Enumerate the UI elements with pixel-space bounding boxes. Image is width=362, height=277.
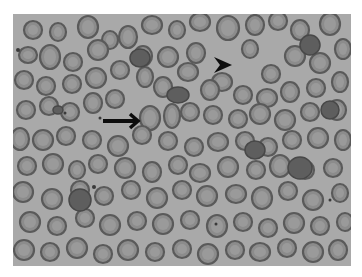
red-blood-cell (332, 72, 348, 92)
red-blood-cell (159, 132, 177, 150)
red-blood-cell (181, 103, 199, 121)
red-blood-cell (307, 79, 325, 97)
platelet (16, 48, 20, 52)
platelet (215, 223, 218, 226)
red-blood-cell (69, 161, 85, 179)
red-blood-cell (234, 86, 252, 104)
red-blood-cell (226, 185, 246, 203)
red-blood-cell (106, 90, 124, 108)
red-blood-cell (310, 53, 330, 73)
red-blood-cell (329, 240, 347, 260)
red-blood-cell (24, 21, 42, 39)
red-blood-cell (115, 158, 135, 178)
platelet (329, 199, 332, 202)
red-blood-cell (283, 131, 301, 149)
red-blood-cell (17, 101, 35, 119)
figure-container: Peripheral blood smear micrograph showin… (0, 0, 362, 277)
red-blood-cell (252, 187, 272, 209)
red-blood-cell (48, 217, 66, 235)
red-blood-cell (303, 190, 323, 210)
red-blood-cell (19, 47, 37, 63)
red-blood-cell (13, 128, 29, 150)
red-blood-cell (78, 16, 98, 38)
red-blood-cell (67, 238, 87, 258)
red-blood-cell (181, 211, 199, 229)
red-blood-cell (146, 243, 164, 261)
red-blood-cell (15, 71, 33, 89)
red-blood-cell (335, 39, 351, 59)
red-blood-cell (197, 186, 217, 206)
red-blood-cell (301, 103, 319, 121)
red-blood-cell (311, 217, 329, 235)
red-blood-cell (14, 240, 34, 260)
red-blood-cell (332, 184, 348, 202)
red-blood-cell (169, 21, 185, 39)
red-blood-cell (337, 213, 351, 231)
dense-red-blood-cell (300, 35, 320, 55)
red-blood-cell (247, 161, 265, 179)
platelet (92, 185, 96, 189)
red-blood-cell (63, 75, 81, 93)
red-blood-cell (108, 136, 128, 156)
red-blood-cell (229, 110, 247, 128)
red-blood-cell (190, 14, 210, 31)
blood-smear-micrograph (13, 14, 351, 266)
red-blood-cell (173, 181, 191, 199)
red-blood-cell (158, 47, 178, 67)
red-blood-cell (128, 212, 146, 230)
red-blood-cell (279, 182, 297, 200)
red-blood-cell (234, 213, 252, 231)
red-blood-cell (218, 157, 238, 177)
red-blood-cell (303, 242, 323, 262)
red-blood-cell (94, 245, 112, 263)
red-blood-cell (142, 16, 162, 34)
red-blood-cell (308, 128, 328, 148)
red-blood-cell (41, 243, 59, 261)
red-blood-cell (250, 243, 270, 261)
red-blood-cell (169, 156, 187, 174)
dense-red-blood-cell (69, 189, 91, 211)
red-blood-cell (50, 23, 66, 41)
red-blood-cell (20, 212, 40, 232)
red-blood-cell (187, 43, 205, 63)
red-blood-cell (57, 127, 75, 145)
red-blood-cell (76, 209, 94, 227)
red-blood-cell (153, 214, 173, 234)
red-blood-cell (320, 14, 340, 35)
red-blood-cell (164, 104, 180, 128)
red-blood-cell (262, 65, 280, 83)
red-blood-cell (95, 187, 113, 205)
red-blood-cell (33, 130, 53, 150)
red-blood-cell (270, 155, 290, 177)
red-blood-cell (119, 26, 137, 48)
platelet (64, 112, 67, 115)
red-blood-cell (84, 93, 102, 113)
platelet (99, 117, 102, 120)
red-blood-cell (278, 239, 296, 257)
dense-red-blood-cell (53, 106, 63, 114)
red-blood-cell (246, 15, 264, 35)
red-blood-cell (61, 103, 79, 121)
smear-canvas (13, 14, 351, 266)
red-blood-cell (207, 215, 227, 237)
red-blood-cell (190, 164, 210, 182)
red-blood-cell (281, 82, 299, 102)
red-blood-cell (37, 77, 55, 95)
red-blood-cell (185, 138, 203, 156)
red-blood-cell (259, 219, 277, 237)
red-blood-cell (89, 155, 107, 173)
red-blood-cell (64, 53, 82, 71)
dense-red-blood-cell (167, 87, 189, 103)
red-blood-cell (86, 68, 106, 88)
red-blood-cell (100, 215, 120, 235)
red-blood-cell (122, 181, 140, 199)
red-blood-cell (275, 110, 295, 130)
dense-red-blood-cell (321, 101, 339, 119)
red-blood-cell (284, 213, 304, 233)
red-blood-cell (198, 244, 218, 264)
red-blood-cell (43, 154, 63, 174)
dense-red-blood-cell (130, 49, 150, 67)
red-blood-cell (269, 14, 287, 30)
red-blood-cell (13, 182, 33, 202)
red-blood-cell (83, 131, 101, 149)
